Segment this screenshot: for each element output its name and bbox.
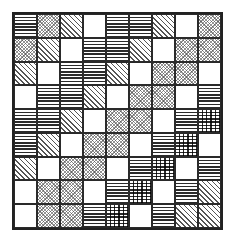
grid-cell-empty bbox=[83, 14, 106, 38]
grid-cell-empty bbox=[129, 133, 152, 157]
grid-cell-diagonal-stripes bbox=[198, 204, 221, 228]
grid-cell-fine-crosshatch-dots bbox=[175, 62, 198, 86]
grid-cell-diagonal-stripes bbox=[60, 14, 83, 38]
grid-cell-horizontal-lines bbox=[37, 109, 60, 133]
grid-cell-plaid-grid bbox=[175, 133, 198, 157]
grid-cell-empty bbox=[175, 14, 198, 38]
grid-cell-fine-crosshatch-dots bbox=[60, 157, 83, 181]
grid-cell-horizontal-lines bbox=[83, 62, 106, 86]
grid-cell-empty bbox=[37, 62, 60, 86]
grid-cell-plaid-grid bbox=[198, 109, 221, 133]
grid-cell-empty bbox=[129, 62, 152, 86]
grid-cell-empty bbox=[83, 109, 106, 133]
grid-cell-fine-crosshatch-dots bbox=[37, 180, 60, 204]
grid-cell-empty bbox=[152, 38, 175, 62]
grid-cell-fine-crosshatch-dots bbox=[60, 180, 83, 204]
grid-cell-empty bbox=[37, 157, 60, 181]
grid-cell-diagonal-stripes bbox=[37, 133, 60, 157]
grid-cell-horizontal-lines bbox=[175, 109, 198, 133]
grid-cell-horizontal-lines bbox=[152, 204, 175, 228]
grid-cell-empty bbox=[198, 62, 221, 86]
grid-cell-plaid-grid bbox=[129, 180, 152, 204]
grid-cell-horizontal-lines bbox=[175, 180, 198, 204]
grid-cell-diagonal-stripes bbox=[37, 38, 60, 62]
grid-cell-fine-crosshatch-dots bbox=[83, 157, 106, 181]
grid-cell-empty bbox=[152, 109, 175, 133]
grid-cell-horizontal-lines bbox=[60, 62, 83, 86]
grid-cell-empty bbox=[152, 180, 175, 204]
grid-cell-horizontal-lines bbox=[152, 133, 175, 157]
grid-cell-empty bbox=[14, 180, 37, 204]
grid-cell-empty bbox=[175, 157, 198, 181]
pattern-grid bbox=[12, 12, 223, 230]
grid-cell-diagonal-stripes bbox=[152, 14, 175, 38]
grid-cell-diagonal-stripes bbox=[83, 85, 106, 109]
grid-cell-plaid-grid bbox=[152, 157, 175, 181]
grid-cell-diagonal-stripes bbox=[175, 204, 198, 228]
grid-cell-plaid-grid bbox=[106, 204, 129, 228]
grid-cell-fine-crosshatch-dots bbox=[129, 109, 152, 133]
grid-cell-empty bbox=[175, 85, 198, 109]
grid-cell-fine-crosshatch-dots bbox=[152, 85, 175, 109]
grid-cell-horizontal-lines bbox=[14, 109, 37, 133]
grid-cell-horizontal-lines bbox=[129, 14, 152, 38]
grid-cell-horizontal-lines bbox=[60, 85, 83, 109]
grid-cell-horizontal-lines bbox=[37, 85, 60, 109]
grid-cell-diagonal-stripes bbox=[60, 109, 83, 133]
grid-cell-diagonal-stripes bbox=[14, 62, 37, 86]
grid-cell-horizontal-lines bbox=[83, 204, 106, 228]
grid-cell-horizontal-lines bbox=[106, 38, 129, 62]
grid-cell-horizontal-lines bbox=[106, 180, 129, 204]
grid-cell-empty bbox=[60, 133, 83, 157]
grid-cell-fine-crosshatch-dots bbox=[60, 204, 83, 228]
grid-cell-empty bbox=[60, 38, 83, 62]
grid-cell-horizontal-lines bbox=[14, 133, 37, 157]
grid-cell-empty bbox=[129, 204, 152, 228]
grid-cell-fine-crosshatch-dots bbox=[14, 38, 37, 62]
grid-cell-fine-crosshatch-dots bbox=[37, 204, 60, 228]
grid-cell-fine-crosshatch-dots bbox=[83, 133, 106, 157]
grid-cell-fine-crosshatch-dots bbox=[106, 109, 129, 133]
grid-cell-horizontal-lines bbox=[129, 157, 152, 181]
grid-cell-fine-crosshatch-dots bbox=[129, 85, 152, 109]
grid-cell-horizontal-lines bbox=[14, 14, 37, 38]
grid-cell-fine-crosshatch-dots bbox=[37, 14, 60, 38]
grid-cell-fine-crosshatch-dots bbox=[152, 62, 175, 86]
grid-cell-fine-crosshatch-dots bbox=[198, 14, 221, 38]
grid-cell-fine-crosshatch-dots bbox=[198, 38, 221, 62]
grid-cell-diagonal-stripes bbox=[198, 180, 221, 204]
grid-cell-horizontal-lines bbox=[83, 38, 106, 62]
grid-cell-empty bbox=[83, 180, 106, 204]
grid-cell-fine-crosshatch-dots bbox=[106, 133, 129, 157]
grid-cell-horizontal-lines bbox=[106, 14, 129, 38]
grid-cell-horizontal-lines bbox=[198, 85, 221, 109]
grid-cell-horizontal-lines bbox=[198, 157, 221, 181]
grid-cell-diagonal-stripes bbox=[106, 62, 129, 86]
grid-cell-fine-crosshatch-dots bbox=[175, 38, 198, 62]
grid-cell-empty bbox=[14, 85, 37, 109]
grid-cell-empty bbox=[198, 133, 221, 157]
grid-cell-empty bbox=[106, 85, 129, 109]
grid-cell-empty bbox=[14, 204, 37, 228]
grid-cell-empty bbox=[106, 157, 129, 181]
grid-cell-diagonal-stripes bbox=[129, 38, 152, 62]
grid-cell-diagonal-stripes bbox=[14, 157, 37, 181]
